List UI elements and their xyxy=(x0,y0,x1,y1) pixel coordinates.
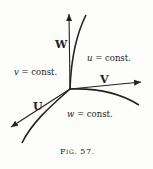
const-text: = const. xyxy=(92,53,130,63)
coordinate-curve-lower xyxy=(22,89,70,143)
figure-57: W V U u = const. v = const. w = const. F… xyxy=(0,0,153,169)
coordinate-curve-right xyxy=(70,89,139,105)
w-vector-label: W xyxy=(55,39,67,50)
w-const-label: w = const. xyxy=(67,110,113,119)
u-vector-label: U xyxy=(33,101,43,112)
figure-caption: Fig. 57. xyxy=(60,148,95,156)
v-const-label: v = const. xyxy=(14,68,57,77)
u-const-label: u = const. xyxy=(87,54,131,63)
coordinate-curve-upper xyxy=(70,15,86,89)
const-text: = const. xyxy=(19,67,57,77)
coordinate-diagram xyxy=(0,0,153,169)
const-text: = const. xyxy=(74,109,112,119)
v-vector-label: V xyxy=(100,74,109,85)
